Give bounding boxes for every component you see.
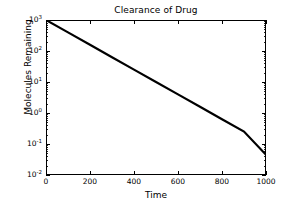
- x-tick-label-0: 0: [26, 177, 66, 186]
- x-tick-label-1000: 1000: [246, 177, 282, 186]
- y-tick-right-0: [262, 175, 266, 176]
- y-tick-label-5: 103: [16, 15, 42, 24]
- x-tick-label-800: 800: [202, 177, 242, 186]
- series-line-molecules-remaining: [46, 20, 266, 155]
- y-tick-label-4: 102: [16, 46, 42, 55]
- x-tick-1000: [266, 171, 267, 175]
- data-line-svg: [46, 20, 266, 175]
- x-tick-top-1000: [266, 20, 267, 24]
- x-axis-label: Time: [46, 190, 266, 200]
- y-tick-0: [46, 175, 50, 176]
- y-tick-label-1: 10-1: [16, 139, 42, 148]
- y-tick-label-3: 101: [16, 77, 42, 86]
- y-tick-label-2: 100: [16, 108, 42, 117]
- x-tick-label-400: 400: [114, 177, 154, 186]
- chart-title: Clearance of Drug: [46, 5, 266, 15]
- x-tick-label-200: 200: [70, 177, 110, 186]
- x-tick-label-600: 600: [158, 177, 198, 186]
- chart-figure: Clearance of Drug Molecules Remaining 10…: [0, 0, 282, 210]
